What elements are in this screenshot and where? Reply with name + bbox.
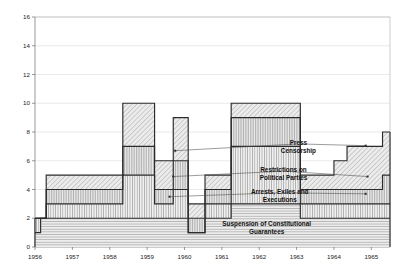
y-axis-ticks	[32, 17, 35, 247]
annotation-label-line2: Censorship	[281, 147, 316, 155]
x-tick-label: 1963	[290, 253, 304, 260]
y-axis-tick-labels: 0246810121416	[23, 13, 30, 250]
x-tick-label: 1957	[65, 253, 79, 260]
annotation-label-line1: Arrests, Exiles and	[251, 188, 309, 196]
x-tick-label: 1956	[28, 253, 42, 260]
annotation-label-line2: Guarantees	[249, 228, 285, 235]
annotation-marker	[365, 145, 367, 147]
y-tick-label: 16	[23, 13, 30, 20]
annotation-marker	[169, 196, 171, 198]
x-tick-label: 1959	[140, 253, 154, 260]
x-tick-label: 1964	[327, 253, 341, 260]
x-axis-ticks	[35, 247, 371, 250]
y-tick-label: 10	[23, 99, 30, 106]
x-tick-label: 1961	[215, 253, 229, 260]
annotation-marker	[174, 150, 176, 152]
y-tick-label: 8	[27, 128, 31, 135]
y-tick-label: 14	[23, 42, 30, 49]
y-tick-label: 0	[27, 243, 31, 250]
y-tick-label: 4	[27, 186, 31, 193]
annotation-label-line2: Executions	[263, 196, 298, 203]
stacked-step-area-chart: PressCensorshipRestrictions onPolitical …	[0, 0, 415, 276]
x-tick-label: 1958	[103, 253, 117, 260]
x-tick-label: 1960	[178, 253, 192, 260]
x-tick-label: 1965	[364, 253, 378, 260]
y-tick-label: 12	[23, 71, 30, 78]
annotation-label-line1: Restrictions on	[260, 166, 307, 173]
chart-figure: PressCensorshipRestrictions onPolitical …	[0, 0, 415, 276]
x-tick-label: 1962	[252, 253, 266, 260]
y-tick-label: 6	[27, 157, 31, 164]
annotation-label-line1: Suspension of Constitutional	[222, 220, 311, 228]
annotation-marker	[367, 176, 369, 178]
y-tick-label: 2	[27, 214, 31, 221]
annotation-label-line1: Press	[290, 139, 308, 146]
annotation-marker	[365, 193, 367, 195]
annotation-label-line2: Political Parties	[260, 174, 308, 181]
annotation-marker	[172, 176, 174, 178]
x-axis-tick-labels: 1956195719581959196019611962196319641965	[28, 253, 379, 260]
